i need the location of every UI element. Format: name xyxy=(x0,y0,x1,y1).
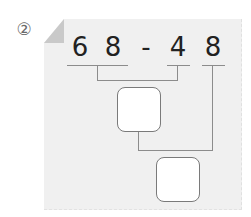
underline-4 xyxy=(167,65,190,66)
connector-ones-down xyxy=(212,65,213,151)
underline-8 xyxy=(202,65,225,66)
digit-ones-first: 8 xyxy=(101,33,125,61)
answer-box-intermediate[interactable] xyxy=(117,87,161,132)
digit-tens-second: 4 xyxy=(166,33,190,61)
connector-box-down xyxy=(138,131,139,151)
folded-corner-shade xyxy=(44,19,64,43)
minus-operator: - xyxy=(134,33,158,61)
answer-box-final[interactable] xyxy=(156,157,200,202)
digit-tens-first: 6 xyxy=(68,33,92,61)
bracket-right-leg xyxy=(177,65,178,81)
digit-ones-second: 8 xyxy=(201,33,225,61)
bracket-left-leg xyxy=(97,65,98,81)
connector-bottom xyxy=(138,150,213,151)
bracket-bottom xyxy=(97,80,178,81)
problem-number: ② xyxy=(14,19,34,39)
